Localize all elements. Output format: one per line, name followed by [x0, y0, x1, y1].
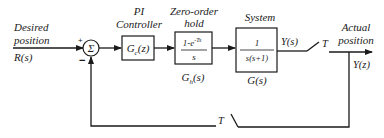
zoh-title: Zero-order: [170, 5, 219, 17]
controller-title: Controller: [116, 18, 163, 30]
sampler-t-bottom: T: [218, 115, 225, 126]
input-label-rs: R(s): [13, 51, 33, 64]
ys-label: Y(s): [281, 36, 298, 48]
feedback-line-left: [91, 57, 216, 126]
input-label-desired: Desired: [13, 21, 49, 33]
block-diagram: Desired position R(s) Σ + − PI Controlle…: [0, 0, 384, 138]
feedback-sampler-switch: [231, 114, 238, 127]
sampler-t-top: T: [322, 38, 329, 49]
input-label-position: position: [13, 34, 50, 46]
hold-title: hold: [184, 17, 204, 29]
output-label-yz: Y(z): [353, 59, 370, 71]
minus-sign: −: [79, 54, 85, 66]
gh-label: Gh(s): [181, 71, 204, 86]
system-numerator: 1: [255, 38, 260, 48]
plus-sign: +: [78, 36, 83, 45]
system-denominator: s(s+1): [246, 53, 268, 63]
zoh-denominator: s: [192, 52, 196, 62]
g-label: G(s): [247, 74, 267, 87]
output-label-position: position: [337, 34, 374, 46]
pi-title: PI: [133, 5, 146, 17]
output-label-actual: Actual: [341, 21, 371, 33]
output-sampler-switch: [307, 42, 319, 51]
sigma-symbol: Σ: [87, 42, 95, 54]
system-title: System: [245, 11, 276, 23]
